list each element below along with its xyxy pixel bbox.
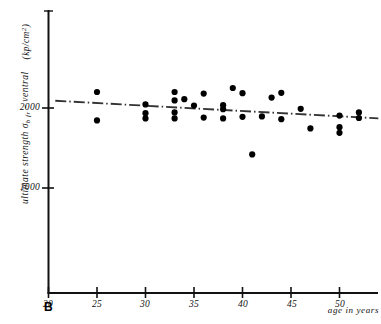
data-point (259, 113, 265, 119)
data-point (172, 109, 178, 115)
data-point-group (94, 85, 362, 158)
data-point (298, 106, 304, 112)
data-point (172, 89, 178, 95)
data-point (336, 124, 342, 130)
trend-line (55, 101, 378, 119)
data-point (94, 117, 100, 123)
data-point (201, 115, 207, 121)
tick-marks (42, 108, 340, 298)
data-point (356, 115, 362, 121)
data-point (94, 89, 100, 95)
axis-lines (44, 10, 378, 294)
data-point (181, 96, 187, 102)
data-point (307, 125, 313, 131)
regression-trend-line (55, 101, 378, 119)
data-point (172, 97, 178, 103)
data-point (191, 103, 197, 109)
data-point (142, 101, 148, 107)
data-point (220, 115, 226, 121)
data-point (239, 114, 245, 120)
data-point (336, 113, 342, 119)
data-point (269, 95, 275, 101)
data-point (142, 115, 148, 121)
data-point (356, 109, 362, 115)
data-point (249, 151, 255, 157)
data-point (220, 106, 226, 112)
data-point (201, 91, 207, 97)
data-point (172, 115, 178, 121)
data-point (278, 90, 284, 96)
data-point (239, 90, 245, 96)
data-point (230, 85, 236, 91)
figure-panel-b: ultimate strength σb fr - ventral (kp/cm… (0, 0, 381, 324)
data-point (278, 116, 284, 122)
plot-canvas (0, 0, 381, 324)
data-point (336, 130, 342, 136)
